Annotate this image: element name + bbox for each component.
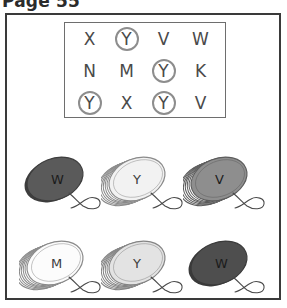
- letter-cell[interactable]: V: [185, 88, 217, 118]
- letter-cell-label: W: [192, 31, 209, 48]
- yoyo-graphic: [19, 149, 105, 221]
- letter-cell[interactable]: W: [185, 24, 217, 54]
- yoyo-row: W Y V: [7, 149, 279, 221]
- page-title: Page 55: [2, 0, 80, 11]
- letter-cell-label: K: [195, 63, 206, 80]
- letter-cell-circled[interactable]: Y: [74, 88, 106, 118]
- yoyo-string: [151, 193, 182, 209]
- letter-cell-label: M: [119, 63, 134, 80]
- yoyo-graphic: [101, 233, 187, 305]
- letter-cell-label: N: [83, 63, 96, 80]
- yoyo-collection: W Y V M Y W: [7, 127, 279, 299]
- yoyo-graphic: [183, 149, 269, 221]
- worksheet-page: Page 55 X Y V W N: [0, 0, 287, 308]
- letter-grid-row: X Y V W: [65, 23, 225, 55]
- yoyo-item[interactable]: W: [19, 149, 105, 221]
- letter-cell[interactable]: M: [111, 56, 143, 86]
- letter-cell-label: Y: [121, 31, 131, 48]
- letter-cell-label: V: [195, 95, 207, 112]
- yoyo-string: [233, 193, 264, 209]
- yoyo-item[interactable]: Y: [101, 149, 187, 221]
- yoyo-item[interactable]: M: [19, 233, 105, 305]
- letter-cell-label: Y: [158, 95, 168, 112]
- letter-grid: X Y V W N M Y: [64, 22, 226, 118]
- letter-cell-label: Y: [158, 63, 168, 80]
- letter-cell[interactable]: X: [74, 24, 106, 54]
- letter-grid-row: Y X Y V: [65, 87, 225, 119]
- yoyo-item[interactable]: W: [183, 233, 269, 305]
- letter-cell-circled[interactable]: Y: [148, 56, 180, 86]
- letter-cell[interactable]: N: [74, 56, 106, 86]
- letter-cell-label: V: [158, 31, 170, 48]
- letter-cell-circled[interactable]: Y: [111, 24, 143, 54]
- yoyo-graphic: [19, 233, 105, 305]
- yoyo-string: [69, 277, 100, 293]
- letter-cell[interactable]: V: [148, 24, 180, 54]
- letter-cell-label: X: [84, 31, 96, 48]
- yoyo-item[interactable]: Y: [101, 233, 187, 305]
- letter-cell-label: X: [121, 95, 133, 112]
- yoyo-item[interactable]: V: [183, 149, 269, 221]
- yoyo-string: [233, 277, 264, 293]
- letter-cell[interactable]: X: [111, 88, 143, 118]
- letter-cell[interactable]: K: [185, 56, 217, 86]
- yoyo-string: [69, 193, 100, 209]
- worksheet-frame: X Y V W N M Y: [5, 13, 281, 300]
- yoyo-string: [151, 277, 182, 293]
- letter-grid-row: N M Y K: [65, 55, 225, 87]
- yoyo-face: [184, 233, 253, 293]
- letter-cell-circled[interactable]: Y: [148, 88, 180, 118]
- yoyo-row: M Y W: [7, 233, 279, 305]
- letter-cell-label: Y: [84, 95, 94, 112]
- yoyo-graphic: [101, 149, 187, 221]
- yoyo-graphic: [183, 233, 269, 305]
- yoyo-face: [20, 149, 89, 209]
